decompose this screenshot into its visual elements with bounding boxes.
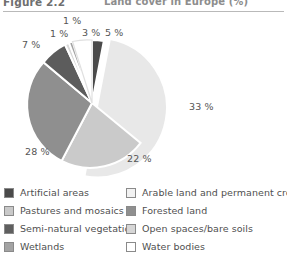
legend-label-semi-natural-vegetation: Semi-natural vegetation bbox=[20, 223, 136, 234]
pie-label-pastures: 22 % bbox=[127, 153, 152, 164]
pie-label-semi-natural: 7 % bbox=[22, 39, 40, 50]
chart-area: 1 % 1 % 3 % 5 % 7 % 33 % 22 % 28 % bbox=[0, 13, 287, 181]
legend-swatch-pastures-mosaics bbox=[4, 206, 14, 216]
legend-label-pastures-mosaics: Pastures and mosaics bbox=[20, 205, 124, 216]
legend-label-forested-land: Forested land bbox=[142, 205, 207, 216]
legend-swatch-water-bodies bbox=[126, 242, 136, 252]
legend-item-arable-land[interactable]: Arable land and permanent crops bbox=[126, 184, 284, 201]
legend: Artificial areas Pastures and mosaics Se… bbox=[0, 184, 287, 254]
pie-label-arable-land: 33 % bbox=[189, 101, 214, 112]
pie-label-water-bodies: 5 % bbox=[105, 27, 123, 38]
legend-label-arable-land: Arable land and permanent crops bbox=[142, 187, 287, 198]
pie-label-open-spaces: 1 % bbox=[63, 15, 81, 26]
legend-item-forested-land[interactable]: Forested land bbox=[126, 202, 284, 219]
figure-number: Figure 2.2 bbox=[3, 0, 65, 8]
legend-label-wetlands: Wetlands bbox=[20, 241, 64, 252]
legend-label-artificial-areas: Artificial areas bbox=[20, 187, 89, 198]
legend-swatch-forested-land bbox=[126, 206, 136, 216]
legend-item-pastures-mosaics[interactable]: Pastures and mosaics bbox=[4, 202, 132, 219]
legend-label-open-spaces: Open spaces/bare soils bbox=[142, 223, 253, 234]
pie-label-artificial-areas: 3 % bbox=[82, 27, 100, 38]
legend-swatch-semi-natural-vegetation bbox=[4, 224, 14, 234]
legend-swatch-open-spaces bbox=[126, 224, 136, 234]
figure-container: Figure 2.2 Land cover in Europe (%) bbox=[0, 0, 287, 256]
legend-item-open-spaces[interactable]: Open spaces/bare soils bbox=[126, 220, 284, 237]
legend-item-semi-natural-vegetation[interactable]: Semi-natural vegetation bbox=[4, 220, 132, 237]
header-divider bbox=[3, 11, 284, 12]
legend-label-water-bodies: Water bodies bbox=[142, 241, 205, 252]
pie-label-wetlands: 1 % bbox=[50, 28, 68, 39]
legend-swatch-wetlands bbox=[4, 242, 14, 252]
legend-item-wetlands[interactable]: Wetlands bbox=[4, 238, 132, 255]
legend-column-right: Arable land and permanent crops Forested… bbox=[126, 184, 284, 256]
figure-title: Land cover in Europe (%) bbox=[104, 0, 248, 7]
legend-item-water-bodies[interactable]: Water bodies bbox=[126, 238, 284, 255]
legend-swatch-arable-land bbox=[126, 188, 136, 198]
legend-item-artificial-areas[interactable]: Artificial areas bbox=[4, 184, 132, 201]
pie-label-forested-land: 28 % bbox=[25, 146, 50, 157]
legend-swatch-artificial-areas bbox=[4, 188, 14, 198]
legend-column-left: Artificial areas Pastures and mosaics Se… bbox=[4, 184, 132, 256]
